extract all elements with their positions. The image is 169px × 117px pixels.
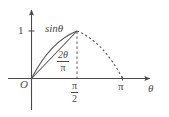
math-figure: 1 sinθ 2θ π O π 2 π θ: [0, 0, 169, 117]
pi-half-denominator: 2: [71, 94, 78, 105]
sine-curve-dashed: [77, 31, 123, 79]
linear-label-denominator: π: [57, 63, 69, 74]
linear-line: [32, 31, 78, 79]
sine-curve-label: sinθ: [45, 23, 63, 34]
x-axis-label: θ: [148, 83, 153, 94]
y-tick-label-one: 1: [18, 25, 24, 36]
pi-half-numerator: π: [71, 81, 78, 92]
graph-canvas: [0, 0, 169, 117]
linear-label-numerator: 2θ: [57, 50, 69, 61]
x-tick-label-pi-half: π 2: [71, 81, 78, 104]
linear-curve-label: 2θ π: [57, 50, 69, 73]
origin-label: O: [20, 79, 28, 90]
x-tick-label-pi: π: [118, 81, 124, 92]
